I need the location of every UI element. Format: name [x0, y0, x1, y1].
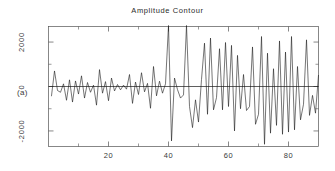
- amplitude-contour-figure: Amplitude Contour (a) 2000 0 -2000 20 40…: [0, 0, 335, 171]
- x-axis-tick-label-20: 20: [94, 151, 124, 160]
- amplitude-waveform-path: [52, 26, 319, 145]
- x-axis-tick-label-40: 40: [154, 151, 184, 160]
- x-axis-tick-label-80: 80: [274, 151, 304, 160]
- plot-area: [0, 0, 335, 171]
- chart-title: Amplitude Contour: [0, 6, 335, 15]
- x-axis-tick-label-60: 60: [214, 151, 244, 160]
- y-axis-tick-label-minus2000: -2000: [16, 109, 28, 153]
- data-line-group: [52, 26, 319, 145]
- y-axis-tick-label-2000: 2000: [16, 20, 28, 64]
- y-axis-tick-label-0: 0: [16, 65, 28, 109]
